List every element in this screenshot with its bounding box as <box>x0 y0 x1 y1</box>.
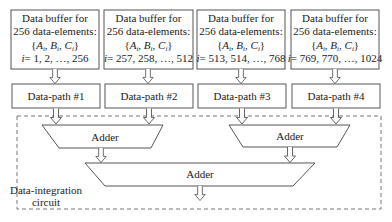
buffer-4-set: {Ai, Bi, Ci} <box>311 39 359 53</box>
buffer-1: Data buffer for 256 data-elements: {Ai, … <box>11 10 99 69</box>
adder-2-label: Adder <box>276 130 304 142</box>
datapath-1: Data-path #1 <box>12 84 100 108</box>
buffer-1-line2: 256 data-elements: <box>13 25 96 37</box>
arrow-dp3-to-adder2 <box>237 109 248 125</box>
buffer-1-set: {Ai, Bi, Ci} <box>31 39 79 53</box>
integration-label-line1: Data-integration <box>10 184 83 196</box>
buffer-3-set: {Ai, Bi, Ci} <box>217 39 265 53</box>
datapath-1-label: Data-path #1 <box>27 90 84 102</box>
adder-1: Adder <box>42 125 163 148</box>
buffer-4: Data buffer for 256 data-elements: {Ai, … <box>288 10 383 69</box>
arrow-buffer3-to-dp3 <box>236 69 246 84</box>
integration-diagram: Data buffer for 256 data-elements: {Ai, … <box>0 0 392 222</box>
datapath-4: Data-path #4 <box>292 84 380 108</box>
adder-1-label: Adder <box>91 131 119 143</box>
arrow-adder1-to-adder3 <box>96 148 106 163</box>
buffer-3: Data buffer for 256 data-elements: {Ai, … <box>196 10 286 69</box>
datapath-2: Data-path #2 <box>105 84 193 108</box>
buffer-2-set: {Ai, Bi, Ci} <box>124 39 172 53</box>
datapath-3-label: Data-path #3 <box>213 90 271 102</box>
buffer-2-line2: 256 data-elements: <box>107 25 190 37</box>
adder-2: Adder <box>229 125 350 147</box>
buffer-2: Data buffer for 256 data-elements: {Ai, … <box>104 10 193 69</box>
arrow-buffer1-to-dp1 <box>50 69 60 84</box>
buffer-4-range: i= 769, 770, …, 1024 <box>288 52 383 64</box>
datapath-3: Data-path #3 <box>198 84 286 108</box>
datapath-2-label: Data-path #2 <box>120 90 177 102</box>
buffer-1-range: i= 1, 2, …, 256 <box>21 52 89 64</box>
buffer-3-line2: 256 data-elements: <box>199 25 282 37</box>
arrow-output <box>195 186 205 201</box>
adder-3: Adder <box>85 163 315 186</box>
buffer-3-line1: Data buffer for <box>208 12 274 24</box>
buffer-4-line2: 256 data-elements: <box>293 25 376 37</box>
arrow-buffer2-to-dp2 <box>143 69 153 84</box>
buffer-4-line1: Data buffer for <box>302 12 368 24</box>
buffer-2-range: i= 257, 258, …, 512 <box>104 52 193 64</box>
integration-label-line2: circuit <box>32 196 60 208</box>
buffer-3-range: i= 513, 514, …, 768 <box>196 52 286 64</box>
arrow-adder2-to-adder3 <box>285 147 296 163</box>
buffer-2-line1: Data buffer for <box>116 12 182 24</box>
arrow-buffer4-to-dp4 <box>330 69 340 84</box>
adder-3-label: Adder <box>186 168 214 180</box>
datapath-4-label: Data-path #4 <box>307 90 365 102</box>
buffer-1-line1: Data buffer for <box>22 12 88 24</box>
